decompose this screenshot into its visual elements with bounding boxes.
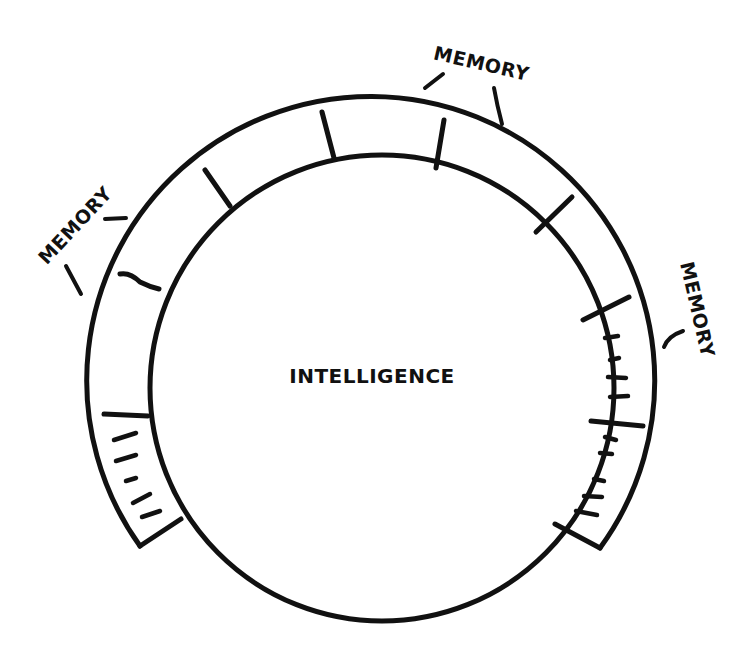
memory-ring-outer-arc [87, 96, 655, 548]
memory-label-top: MEMORY [432, 42, 532, 85]
ring-end-left [140, 519, 181, 546]
memory-label-right: MEMORY [676, 260, 719, 360]
memory-intelligence-diagram: INTELLIGENCE MEMORY MEMORY MEMORY [0, 0, 754, 665]
segment-marks-lower-left [114, 433, 160, 517]
memory-label-left: MEMORY [34, 182, 116, 268]
label-leader-lines [66, 74, 683, 347]
center-label: INTELLIGENCE [289, 364, 455, 388]
